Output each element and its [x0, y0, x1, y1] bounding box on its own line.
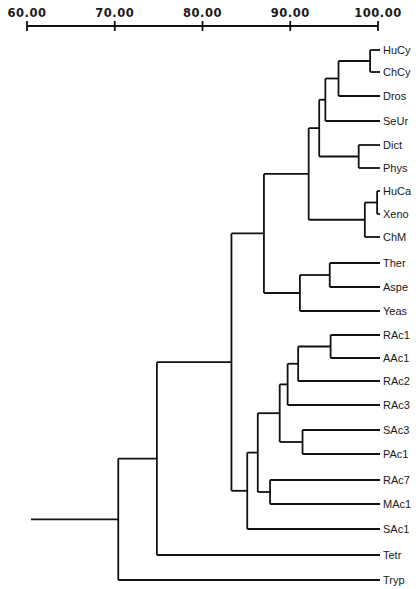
axis-tick-label: 100.00: [354, 6, 401, 20]
axis-tick-label: 70.00: [95, 6, 134, 20]
leaf-label-seur: SeUr: [383, 115, 408, 127]
leaf-label-dros: Dros: [383, 90, 407, 102]
leaf-labels: HuCyChCyDrosSeUrDictPhysHuCaXenoChMTherA…: [383, 44, 412, 586]
dendrogram-branches: [31, 50, 380, 580]
leaf-label-aac1: AAc1: [383, 352, 409, 364]
dendrogram: 60.0070.0080.0090.00100.00 HuCyChCyDrosS…: [0, 0, 420, 589]
leaf-label-tetr: Tetr: [383, 549, 402, 561]
leaf-label-mac1: MAc1: [383, 498, 411, 510]
leaf-label-tryp: Tryp: [383, 574, 405, 586]
leaf-label-huca: HuCa: [383, 185, 412, 197]
leaf-label-rac7: RAc7: [383, 474, 410, 486]
leaf-label-sac3: SAc3: [383, 424, 409, 436]
leaf-label-chm: ChM: [383, 231, 406, 243]
leaf-label-hucy: HuCy: [383, 44, 411, 56]
leaf-label-ther: Ther: [383, 257, 406, 269]
leaf-label-phys: Phys: [383, 162, 408, 174]
axis-tick-label: 80.00: [183, 6, 222, 20]
similarity-scale-axis: 60.0070.0080.0090.00100.00: [8, 6, 402, 31]
leaf-label-xeno: Xeno: [383, 208, 409, 220]
leaf-label-rac3: RAc3: [383, 399, 410, 411]
leaf-label-dict: Dict: [383, 139, 402, 151]
leaf-label-rac2: RAc2: [383, 375, 410, 387]
leaf-label-aspe: Aspe: [383, 281, 408, 293]
axis-tick-label: 90.00: [271, 6, 310, 20]
leaf-label-yeas: Yeas: [383, 305, 408, 317]
axis-tick-label: 60.00: [8, 6, 47, 20]
leaf-label-rac1: RAc1: [383, 329, 410, 341]
leaf-label-pac1: PAc1: [383, 448, 408, 460]
leaf-label-sac1: SAc1: [383, 523, 409, 535]
leaf-label-chcy: ChCy: [383, 66, 411, 78]
